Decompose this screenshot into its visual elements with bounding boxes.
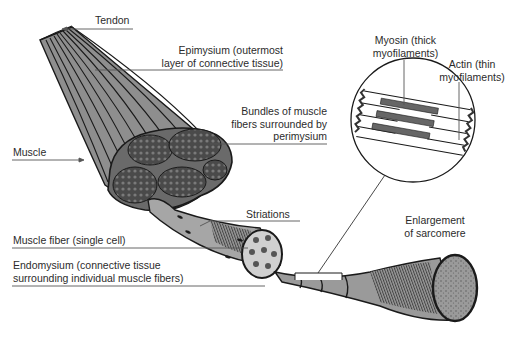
label-actin: Actin (thin myofilaments) — [437, 58, 507, 83]
label-bundles-line3: perimysium — [220, 130, 327, 143]
label-tendon: Tendon — [95, 14, 129, 27]
label-epimysium-line1: Epimysium (outermost — [140, 44, 283, 57]
label-myosin-line1: Myosin (thick — [368, 34, 443, 47]
label-striations: Striations — [246, 208, 290, 221]
label-epimysium: Epimysium (outermost layer of connective… — [140, 44, 283, 69]
label-endomysium: Endomysium (connective tissue surroundin… — [13, 259, 183, 284]
label-muscle-fiber: Muscle fiber (single cell) — [13, 234, 126, 247]
myofibril — [275, 255, 477, 321]
label-enlargement-line2: of sarcomere — [400, 227, 470, 240]
label-endomysium-line2: surrounding individual muscle fibers) — [13, 272, 183, 285]
label-endomysium-line1: Endomysium (connective tissue — [13, 259, 183, 272]
label-actin-line1: Actin (thin — [437, 58, 507, 71]
label-epimysium-line2: layer of connective tissue) — [140, 57, 283, 70]
label-myosin-line2: myofilaments) — [368, 47, 443, 60]
label-myosin: Myosin (thick myofilaments) — [368, 34, 443, 59]
label-actin-line2: myofilaments) — [437, 71, 507, 84]
label-bundles: Bundles of muscle fibers surrounded by p… — [220, 105, 327, 143]
label-enlargement-line1: Enlargement — [400, 214, 470, 227]
label-enlargement: Enlargement of sarcomere — [400, 214, 470, 239]
label-bundles-line1: Bundles of muscle — [220, 105, 327, 118]
label-muscle: Muscle — [13, 146, 46, 159]
muscle-anatomy-diagram: Tendon Epimysium (outermost layer of con… — [0, 0, 517, 337]
sarcomere-enlargement — [318, 58, 475, 273]
label-bundles-line2: fibers surrounded by — [220, 118, 327, 131]
